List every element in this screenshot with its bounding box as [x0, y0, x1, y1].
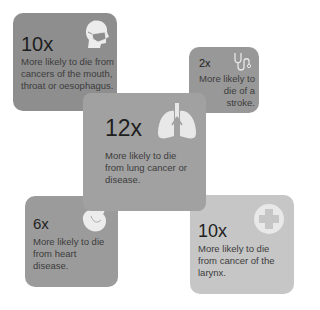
multiplier: 10x — [198, 222, 227, 240]
multiplier: 6x — [33, 216, 49, 231]
description: More likely to die from cancer of the la… — [198, 243, 290, 279]
head-mask-icon — [83, 19, 111, 49]
tile-lung-cancer: 12x More likely to die from lung cancer … — [83, 93, 206, 211]
tile-larynx-cancer: 10x More likely to die from cancer of th… — [190, 195, 294, 294]
multiplier: 12x — [105, 117, 142, 140]
medical-cross-icon — [253, 203, 285, 235]
lungs-icon — [156, 103, 198, 141]
description: More likely to die from cancers of the m… — [21, 56, 117, 92]
stethoscope-icon — [231, 51, 253, 73]
description: More likely to die from lung cancer or d… — [105, 150, 195, 186]
description: More likely to die from heart disease. — [33, 236, 111, 272]
multiplier: 10x — [21, 34, 53, 54]
multiplier: 2x — [199, 58, 211, 69]
